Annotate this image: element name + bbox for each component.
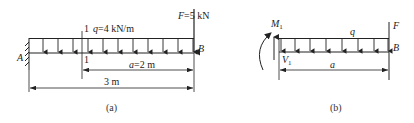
- load-label-b: q: [350, 26, 355, 37]
- section-mark-top: 1: [84, 23, 89, 34]
- caption-b: (b): [330, 102, 342, 114]
- end-label-b-a: B: [198, 43, 204, 54]
- beam-diagrams: 1 q=4 kN/m F=5 kN B A 1 a=2 m 3 m (a): [0, 0, 414, 123]
- end-label-b-b: B: [393, 42, 399, 53]
- distributed-load-arrows-a: [43, 39, 193, 52]
- force-label-b: F: [392, 20, 400, 31]
- support-label-a: A: [16, 52, 24, 63]
- moment-arrow-icon: [259, 33, 271, 70]
- moment-label: M1: [270, 18, 283, 31]
- load-label-a: q=4 kN/m: [93, 23, 134, 34]
- shear-label: V1: [282, 54, 292, 67]
- fixed-support-icon: [25, 38, 29, 70]
- caption-a: (a): [106, 102, 117, 114]
- force-label-a: F=5 kN: [177, 10, 209, 21]
- section-mark-bottom: 1: [84, 54, 89, 65]
- beam-a: [29, 39, 194, 54]
- dim-total-label: 3 m: [104, 76, 120, 87]
- distributed-load-arrows-b: [281, 39, 388, 51]
- dim-label-b: a: [330, 59, 335, 70]
- figure-b: M1 q F B V1 a (b): [259, 18, 400, 114]
- figure-a: 1 q=4 kN/m F=5 kN B A 1 a=2 m 3 m (a): [16, 9, 209, 114]
- dim-segment-label: a=2 m: [129, 59, 155, 70]
